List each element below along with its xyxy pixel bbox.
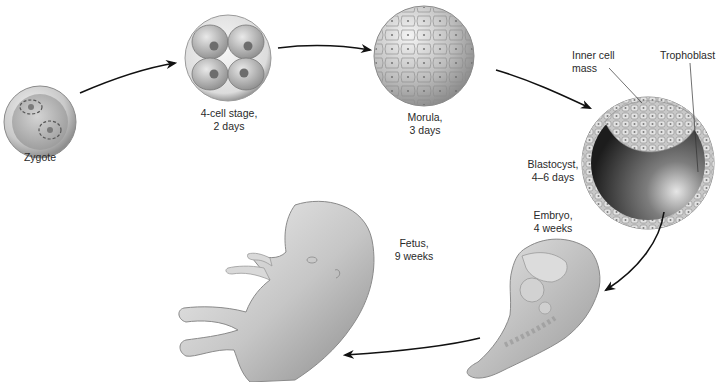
label-fetus: Fetus, 9 weeks xyxy=(384,237,444,263)
stage-name: Morula, xyxy=(392,111,458,124)
stage-time: 2 days xyxy=(190,120,268,133)
callout-line: Trophoblast xyxy=(660,49,715,62)
callout-line: mass xyxy=(572,62,615,75)
label-blastocyst: Blastocyst, 4–6 days xyxy=(520,158,586,184)
development-diagram: Zygote 4-cell stage, 2 days Morula, 3 da… xyxy=(0,0,726,382)
stage-name: Blastocyst, xyxy=(520,158,586,171)
stage-name: Fetus, xyxy=(384,237,444,250)
label-zygote: Zygote xyxy=(17,151,63,164)
arrow-four-cell-to-morula xyxy=(278,46,370,50)
label-morula: Morula, 3 days xyxy=(392,111,458,137)
fetus-illustration xyxy=(179,201,374,382)
zygote-illustration xyxy=(4,86,76,158)
label-four-cell: 4-cell stage, 2 days xyxy=(190,107,268,133)
stage-time: 4 weeks xyxy=(523,222,583,235)
callout-trophoblast: Trophoblast xyxy=(660,49,715,62)
callout-line: Inner cell xyxy=(572,49,615,62)
morula-illustration xyxy=(374,6,474,106)
callout-inner-cell-mass: Inner cell mass xyxy=(572,49,615,75)
arrow-zygote-to-four-cell xyxy=(80,63,175,93)
stage-name: Zygote xyxy=(17,151,63,164)
stage-time: 9 weeks xyxy=(384,250,444,263)
stage-time: 3 days xyxy=(392,124,458,137)
stage-name: Embryo, xyxy=(523,209,583,222)
blastocyst-illustration xyxy=(582,63,714,229)
stage-name: 4-cell stage, xyxy=(190,107,268,120)
arrow-embryo-to-fetus xyxy=(345,338,480,355)
arrow-morula-to-blastocyst xyxy=(496,70,590,108)
stage-time: 4–6 days xyxy=(520,171,586,184)
four-cell-illustration xyxy=(185,15,271,101)
label-embryo: Embryo, 4 weeks xyxy=(523,209,583,235)
embryo-illustration xyxy=(467,239,600,378)
